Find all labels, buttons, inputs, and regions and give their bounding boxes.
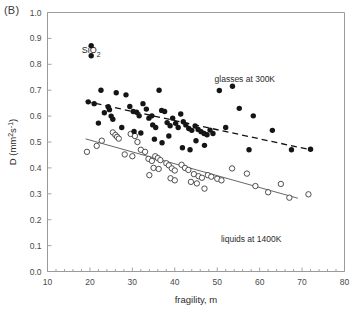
data-point-glass: [270, 128, 275, 133]
data-point-glass: [138, 130, 143, 135]
data-point-glass: [204, 132, 209, 137]
data-point-glass: [187, 147, 192, 152]
y-tick-label: 0.9: [30, 33, 42, 43]
y-tick-label: 0.3: [30, 189, 42, 199]
data-point-liquid: [122, 152, 127, 157]
scatter-plot: 1020304050607080 0.00.10.20.30.40.50.60.…: [0, 0, 357, 320]
y-tick-label: 0.2: [30, 215, 42, 225]
data-point-liquid: [306, 192, 311, 197]
data-point-liquid: [135, 139, 140, 144]
data-point-liquid: [84, 149, 89, 154]
data-point-glass: [167, 123, 172, 128]
x-axis-title: fragility, m: [175, 294, 218, 305]
y-tick-label: 0.0: [30, 267, 42, 277]
y-axis-ticks: 0.00.10.20.30.40.50.60.70.80.91.0: [30, 8, 52, 277]
data-point-liquid: [194, 181, 199, 186]
y-tick-label: 0.4: [30, 163, 42, 173]
x-tick-label: 80: [340, 277, 350, 287]
data-point-glass: [144, 106, 149, 111]
data-point-liquid: [199, 175, 204, 180]
data-point-glass: [102, 110, 107, 115]
data-point-liquid: [186, 167, 191, 172]
x-tick-label: 70: [297, 277, 307, 287]
y-tick-label: 0.6: [30, 111, 42, 121]
data-point-glass: [110, 117, 115, 122]
data-point-liquid: [253, 183, 258, 188]
data-point-glass: [202, 143, 207, 148]
y-tick-label: 1.0: [30, 8, 42, 18]
data-point-glass: [153, 125, 158, 130]
annotations-group: SiO2glasses at 300Kliquids at 1400K: [82, 45, 282, 244]
y-axis-title: D (mm2s-1): [7, 119, 19, 166]
data-point-liquid: [116, 136, 121, 141]
y-tick-label: 0.5: [30, 137, 42, 147]
data-point-liquid: [265, 190, 270, 195]
panel-label: (B): [4, 4, 19, 16]
data-point-liquid: [94, 143, 99, 148]
y-tick-label: 0.1: [30, 241, 42, 251]
data-point-glass: [210, 131, 215, 136]
data-point-liquid: [244, 171, 249, 176]
data-point-glass: [119, 125, 124, 130]
data-point-glass: [251, 113, 256, 118]
data-point-glass: [91, 101, 96, 106]
x-tick-label: 30: [128, 277, 138, 287]
data-point-liquid: [132, 133, 137, 138]
annotation-liquids-at-1400k: liquids at 1400K: [221, 234, 282, 244]
data-point-glass: [156, 88, 161, 93]
data-point-glass: [308, 147, 313, 152]
data-point-glass: [107, 107, 112, 112]
y-tick-label: 0.8: [30, 59, 42, 69]
data-point-liquid: [130, 154, 135, 159]
data-point-liquid: [151, 165, 156, 170]
x-tick-label: 60: [255, 277, 265, 287]
data-point-glass: [189, 128, 194, 133]
data-point-liquid: [99, 138, 104, 143]
data-point-liquid: [158, 157, 163, 162]
data-point-liquid: [202, 186, 207, 191]
data-point-glass: [237, 106, 242, 111]
data-point-glass: [175, 125, 180, 130]
x-tick-label: 40: [170, 277, 180, 287]
data-point-glass: [140, 101, 145, 106]
data-point-glass: [123, 92, 128, 97]
data-point-glass: [180, 145, 185, 150]
x-tick-label: 10: [43, 277, 53, 287]
data-point-liquid: [188, 179, 193, 184]
data-point-liquid: [219, 178, 224, 183]
annotation-glasses-at-300k: glasses at 300K: [215, 74, 276, 84]
data-point-liquid: [287, 195, 292, 200]
data-point-glass: [246, 147, 251, 152]
data-point-glass: [178, 111, 183, 116]
data-point-glass: [162, 109, 167, 114]
figure-panel-b: (B) 1020304050607080 0.00.10.20.30.40.50…: [0, 0, 357, 320]
x-tick-label: 20: [85, 277, 95, 287]
data-point-glass: [217, 88, 222, 93]
data-point-glass: [159, 140, 164, 145]
y-tick-label: 0.7: [30, 85, 42, 95]
data-point-glass: [289, 147, 294, 152]
data-point-liquid: [278, 181, 283, 186]
data-point-glass: [223, 125, 228, 130]
data-point-liquid: [149, 158, 154, 163]
data-point-liquid: [142, 149, 147, 154]
data-point-glass: [131, 129, 136, 134]
x-tick-label: 50: [212, 277, 222, 287]
data-point-liquid: [147, 172, 152, 177]
data-point-glass: [230, 84, 235, 89]
data-point-liquid: [229, 166, 234, 171]
data-point-glass: [136, 113, 141, 118]
data-point-glass: [193, 138, 198, 143]
data-point-glass: [114, 90, 119, 95]
data-point-glass: [86, 99, 91, 104]
data-point-liquid: [156, 166, 161, 171]
data-point-liquid: [172, 168, 177, 173]
data-point-liquid: [209, 174, 214, 179]
data-point-liquid: [172, 178, 177, 183]
data-point-glass: [152, 136, 157, 141]
data-point-glass: [149, 113, 154, 118]
data-point-glass: [98, 88, 103, 93]
data-point-glass: [170, 115, 175, 120]
data-point-glass: [127, 104, 132, 109]
data-point-glass: [96, 120, 101, 125]
